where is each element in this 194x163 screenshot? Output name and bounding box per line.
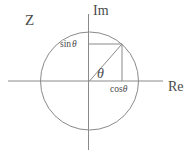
plane-label-z: Z <box>25 13 34 28</box>
angle-theta-label: θ <box>97 67 104 81</box>
sine-label-prefix: sin <box>60 39 71 49</box>
imaginary-axis-label: Im <box>93 4 109 18</box>
sine-label: sin θ <box>60 40 77 50</box>
sine-label-symbol: θ <box>72 39 77 49</box>
real-axis-label: Re <box>168 80 184 94</box>
complex-plane-diagram: Z Im Re sin θ cosθ θ <box>0 0 194 163</box>
cosine-label-prefix: cos <box>110 84 123 94</box>
cosine-label: cosθ <box>110 85 127 95</box>
cosine-label-symbol: θ <box>123 84 128 94</box>
